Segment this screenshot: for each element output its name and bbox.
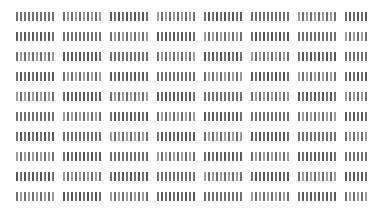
glyph-tick [99, 112, 101, 121]
glyph-tick [208, 192, 210, 201]
glyph-tick [306, 92, 308, 101]
glyph-tick [322, 52, 324, 61]
glyph-tick [36, 132, 38, 141]
glyph-tick [48, 192, 50, 201]
glyph-tick [52, 52, 54, 61]
glyph-tick [71, 12, 73, 21]
glyph-tick [24, 152, 26, 161]
text-line [0, 172, 386, 181]
glyph-tick [322, 92, 324, 101]
glyph-tick [228, 112, 230, 121]
glyph-tick [232, 132, 234, 141]
glyph-tick [75, 32, 77, 41]
glyph-tick [28, 132, 30, 141]
glyph-tick [79, 172, 81, 181]
glyph-tick [236, 32, 238, 41]
glyph-tick [326, 132, 328, 141]
word-group [16, 152, 56, 161]
glyph-tick [95, 112, 97, 121]
glyph-tick [75, 112, 77, 121]
glyph-tick [259, 112, 261, 121]
glyph-tick [224, 112, 226, 121]
glyph-tick [189, 172, 191, 181]
glyph-tick [330, 52, 332, 61]
glyph-tick [357, 92, 359, 101]
glyph-tick [330, 32, 332, 41]
glyph-tick [334, 72, 336, 81]
glyph-tick [52, 12, 54, 21]
glyph-tick [44, 112, 46, 121]
glyph-tick [63, 52, 65, 61]
glyph-tick [169, 132, 171, 141]
glyph-tick [99, 72, 101, 81]
word-group [157, 152, 197, 161]
word-group [157, 172, 197, 181]
word-group [16, 12, 56, 21]
glyph-tick [193, 52, 195, 61]
glyph-tick [185, 52, 187, 61]
glyph-tick [157, 32, 159, 41]
glyph-tick [204, 12, 206, 21]
glyph-tick [189, 52, 191, 61]
glyph-tick [95, 12, 97, 21]
glyph-tick [345, 12, 347, 21]
glyph-tick [228, 52, 230, 61]
glyph-tick [83, 32, 85, 41]
word-group [16, 92, 56, 101]
glyph-tick [165, 192, 167, 201]
word-group [298, 192, 338, 201]
glyph-tick [357, 52, 359, 61]
glyph-tick [216, 12, 218, 21]
glyph-tick [16, 152, 18, 161]
glyph-tick [126, 52, 128, 61]
glyph-tick [298, 72, 300, 81]
glyph-tick [251, 52, 253, 61]
glyph-tick [91, 32, 93, 41]
glyph-tick [71, 72, 73, 81]
glyph-tick [142, 112, 144, 121]
glyph-tick [126, 32, 128, 41]
word-group [63, 112, 103, 121]
glyph-tick [24, 192, 26, 201]
glyph-tick [314, 32, 316, 41]
glyph-tick [279, 152, 281, 161]
glyph-tick [169, 172, 171, 181]
glyph-tick [177, 132, 179, 141]
glyph-tick [146, 152, 148, 161]
glyph-tick [20, 32, 22, 41]
glyph-tick [142, 72, 144, 81]
glyph-tick [224, 32, 226, 41]
glyph-tick [28, 32, 30, 41]
glyph-tick [146, 12, 148, 21]
glyph-tick [306, 72, 308, 81]
glyph-tick [130, 32, 132, 41]
glyph-tick [349, 52, 351, 61]
glyph-tick [161, 32, 163, 41]
glyph-tick [32, 32, 34, 41]
glyph-tick [165, 52, 167, 61]
glyph-tick [302, 72, 304, 81]
glyph-tick [134, 12, 136, 21]
glyph-tick [91, 132, 93, 141]
glyph-tick [193, 92, 195, 101]
glyph-tick [306, 32, 308, 41]
glyph-tick [361, 132, 363, 141]
glyph-tick [36, 52, 38, 61]
glyph-tick [310, 132, 312, 141]
glyph-tick [357, 132, 359, 141]
glyph-tick [40, 192, 42, 201]
glyph-tick [110, 72, 112, 81]
word-group [298, 12, 338, 21]
glyph-tick [134, 172, 136, 181]
glyph-tick [349, 152, 351, 161]
glyph-tick [99, 12, 101, 21]
word-group [204, 172, 244, 181]
glyph-tick [255, 192, 257, 201]
glyph-tick [259, 172, 261, 181]
glyph-tick [48, 152, 50, 161]
glyph-tick [365, 92, 367, 101]
glyph-tick [110, 172, 112, 181]
glyph-tick [287, 132, 289, 141]
glyph-tick [165, 132, 167, 141]
word-group [110, 112, 150, 121]
